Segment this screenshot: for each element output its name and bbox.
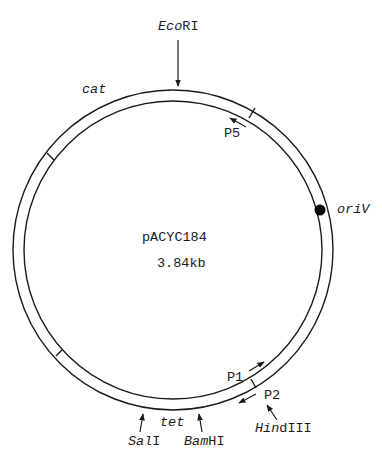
- site-label-bamhi: BamHI: [184, 434, 225, 449]
- plasmid-inner-ring: [24, 101, 322, 399]
- sali-arrow-icon: [140, 414, 143, 432]
- plasmid-map: EcoRI cat P5 oriV pACYC184 3.84kb P1 P2 …: [0, 0, 382, 460]
- bamhi-arrow-icon: [199, 414, 202, 432]
- origin-dot-icon: [315, 205, 326, 216]
- boundary-tick-lower-left: [56, 350, 62, 356]
- site-label-sali: SalI: [128, 434, 160, 449]
- plasmid-size: 3.84kb: [157, 256, 206, 271]
- site-label-ecori: EcoRI: [158, 19, 199, 34]
- hindiii-arrow-icon: [267, 405, 277, 420]
- boundary-tick-upper-left: [47, 153, 54, 160]
- origin-label: oriV: [337, 202, 371, 217]
- p2-arrow-icon: [239, 394, 256, 403]
- plasmid-outer-ring: [13, 90, 333, 410]
- plasmid-map-svg: EcoRI cat P5 oriV pACYC184 3.84kb P1 P2 …: [0, 0, 382, 460]
- promoter-label-p2: P2: [264, 388, 280, 403]
- site-label-hindiii: HindIII: [255, 421, 312, 436]
- gene-label-cat: cat: [82, 82, 106, 97]
- plasmid-name: pACYC184: [142, 230, 207, 245]
- promoter-label-p1: P1: [227, 370, 243, 385]
- promoter-label-p5: P5: [224, 126, 240, 141]
- boundary-tick-lower-right: [251, 379, 256, 388]
- gene-label-tet: tet: [160, 415, 184, 430]
